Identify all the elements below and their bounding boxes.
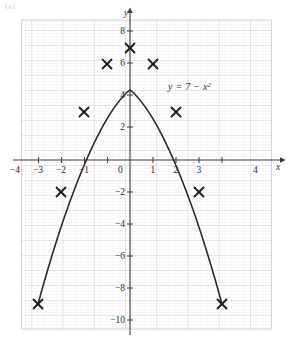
y-tick-label: −10 bbox=[110, 315, 125, 325]
y-tick-label: 2 bbox=[120, 122, 125, 132]
x-tick-label: −3 bbox=[33, 165, 43, 175]
y-axis-label: y bbox=[123, 8, 129, 18]
x-tick-label: 0 bbox=[118, 165, 123, 175]
y-tick-label: 8 bbox=[120, 26, 125, 36]
x-tick-label: −2 bbox=[56, 165, 66, 175]
y-tick-label: −4 bbox=[115, 219, 125, 229]
x-tick-label: 3 bbox=[197, 165, 202, 175]
y-tick-label: −6 bbox=[115, 251, 125, 261]
figure-part-label: (a) bbox=[5, 1, 15, 11]
equation-equals: = bbox=[175, 81, 182, 92]
y-tick-label: −8 bbox=[115, 283, 125, 293]
x-tick-label: 1 bbox=[151, 165, 156, 175]
parabola-plot: −4 −3 −2 −1 0 1 2 3 4 8 6 4 2 −2 −4 −6 −… bbox=[0, 0, 291, 337]
equation-minus: − bbox=[193, 81, 200, 92]
x-tick-label: 4 bbox=[253, 165, 258, 175]
equation-lhs: y bbox=[167, 81, 173, 92]
graph-figure: (a) bbox=[0, 0, 291, 337]
x-tick-label: −4 bbox=[10, 165, 20, 175]
equation-exponent: 2 bbox=[207, 81, 211, 89]
y-tick-label: −2 bbox=[115, 187, 125, 197]
x-axis-label: x bbox=[275, 162, 281, 172]
y-tick-label: 6 bbox=[120, 58, 125, 68]
